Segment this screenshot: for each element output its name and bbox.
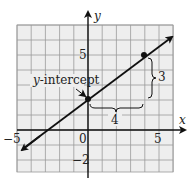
tick-label-y-neg2: −2 xyxy=(72,153,90,167)
y-intercept-label: y-intercept xyxy=(32,73,100,87)
linear-graph: y x −5 0 5 5 −2 y-intercept 4 3 xyxy=(0,0,194,184)
point-4-5 xyxy=(141,52,147,58)
y-axis-label: y xyxy=(93,9,101,23)
tick-label-y-5: 5 xyxy=(79,48,87,62)
run-label: 4 xyxy=(111,113,119,127)
grid-background xyxy=(17,25,173,172)
tick-label-origin: 0 xyxy=(79,132,87,146)
x-axis-label: x xyxy=(179,113,186,127)
point-y-intercept xyxy=(85,96,91,102)
tick-label-x-5: 5 xyxy=(154,132,162,146)
rise-label: 3 xyxy=(158,70,166,84)
tick-label-x-neg5: −5 xyxy=(3,132,21,146)
